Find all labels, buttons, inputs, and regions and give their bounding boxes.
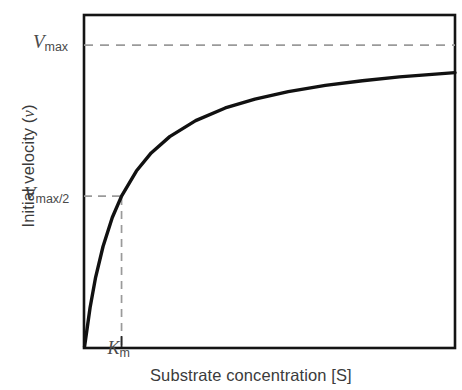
vmax-subscript: max: [45, 40, 68, 54]
y-axis-title-tail: ): [19, 104, 37, 110]
plot-area: [0, 0, 462, 390]
michaelis-menten-figure: Vmax Vmax/2 Km Substrate concentration […: [0, 0, 462, 390]
vmax-symbol: V: [33, 31, 45, 52]
vmax-half-subscript: max/2: [36, 192, 70, 206]
km-symbol: K: [108, 338, 120, 358]
plot-frame: [84, 15, 455, 348]
y-axis-title-text: Initial velocity (: [19, 118, 37, 228]
y-axis-velocity-symbol: v: [19, 110, 38, 117]
km-tick-label: Km: [108, 338, 130, 360]
x-axis-title: Substrate concentration [S]: [150, 366, 352, 385]
km-subscript: m: [120, 346, 130, 360]
y-axis-title: Initial velocity (v): [19, 51, 39, 281]
